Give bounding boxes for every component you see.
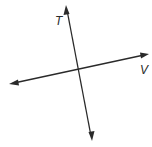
line-t bbox=[64, 5, 95, 141]
intersecting-lines-diagram: T V bbox=[0, 0, 152, 147]
label-v: V bbox=[140, 63, 149, 77]
arrowhead-up-icon bbox=[64, 5, 70, 15]
arrowhead-left-icon bbox=[9, 80, 19, 86]
line-v bbox=[9, 53, 149, 86]
arrowhead-right-icon bbox=[140, 53, 149, 59]
label-t: T bbox=[55, 14, 64, 28]
arrowhead-down-icon bbox=[89, 131, 95, 141]
